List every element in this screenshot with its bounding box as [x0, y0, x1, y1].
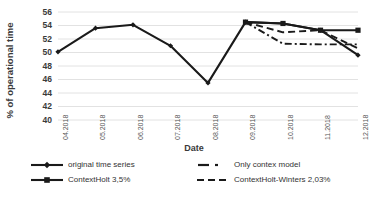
y-axis-tick: 56: [36, 7, 52, 17]
y-axis-tick: 50: [36, 47, 52, 57]
x-axis-tick: 11.2018: [324, 115, 331, 140]
legend-label: Only contex model: [234, 160, 300, 170]
x-axis-tick: 07.2018: [174, 115, 181, 140]
x-axis-title: Date: [164, 143, 204, 153]
x-axis-tick: 06.2018: [137, 115, 144, 140]
legend-item[interactable]: original time series: [30, 160, 135, 170]
y-axis-tick: 46: [36, 74, 52, 84]
legend-label: original time series: [68, 160, 135, 170]
legend-item[interactable]: Only contex model: [196, 160, 300, 170]
legend-symbol-icon: [30, 160, 64, 170]
y-axis-tick: 54: [36, 20, 52, 30]
legend-label: ContextHolt 3,5%: [68, 175, 130, 185]
y-axis-tick: 48: [36, 61, 52, 71]
x-axis-title-wrap: Date: [0, 143, 368, 153]
x-axis-tick: 08.2018: [212, 115, 219, 140]
data-point-marker: [355, 28, 360, 33]
legend-symbol-icon: [196, 175, 230, 185]
y-axis-tick: 52: [36, 34, 52, 44]
chart-legend: original time seriesContextHolt 3,5%Only…: [0, 158, 368, 198]
y-axis-tick: 42: [36, 101, 52, 111]
legend-label: ContextHolt-Winters 2,03%: [234, 175, 330, 185]
y-axis-title-wrap: % of operational time: [0, 0, 19, 140]
legend-item[interactable]: ContextHolt 3,5%: [30, 175, 130, 185]
x-axis-tick: 10.2018: [287, 115, 294, 140]
legend-item[interactable]: ContextHolt-Winters 2,03%: [196, 175, 330, 185]
y-axis-tick: 40: [36, 115, 52, 125]
x-axis-tick: 12.2018: [362, 115, 369, 140]
y-axis-tick: 44: [36, 88, 52, 98]
legend-symbol-icon: [196, 160, 230, 170]
data-point-marker: [280, 21, 285, 26]
x-axis-tick: 09.2018: [249, 115, 256, 140]
legend-symbol-icon: [30, 175, 64, 185]
y-axis-title: % of operational time: [4, 22, 15, 118]
x-axis-tick: 05.2018: [99, 115, 106, 140]
x-axis-tick: 04.2018: [62, 115, 69, 140]
